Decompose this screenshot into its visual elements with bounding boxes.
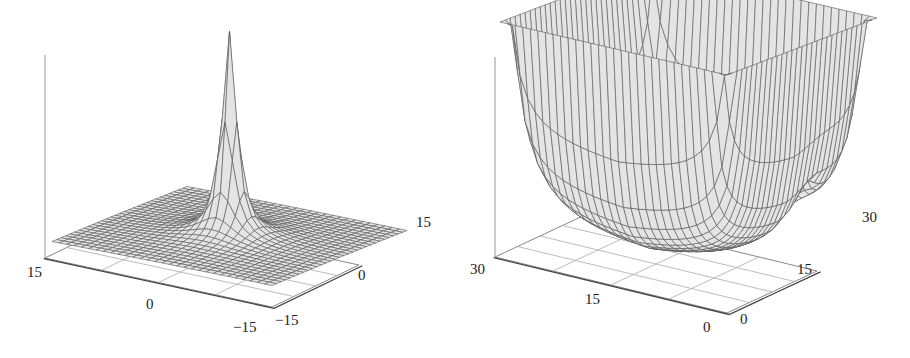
axis-tick-label: 15 — [585, 292, 600, 307]
surface-mesh — [500, 0, 877, 252]
axis-tick-label: 15 — [416, 215, 431, 230]
axis-tick-label: −15 — [233, 320, 256, 335]
surface-plot-left: 150−15−15015 — [0, 0, 455, 358]
axis-tick-label: 0 — [146, 297, 154, 312]
axis-tick-label: 15 — [27, 265, 42, 280]
axis-tick-label: 0 — [740, 312, 748, 327]
axis-tick-label: 30 — [470, 262, 485, 277]
axis-tick-label: 30 — [862, 210, 877, 225]
axis-tick-label: 15 — [797, 262, 812, 277]
surface-plot-right-canvas — [455, 0, 910, 358]
axis-tick-label: 0 — [358, 268, 366, 283]
surface-plot-right: 3015001530 — [455, 0, 910, 358]
surface-mesh — [52, 32, 407, 286]
surface-plot-left-canvas — [0, 0, 455, 358]
axis-tick-label: −15 — [275, 313, 298, 328]
axis-tick-label: 0 — [703, 320, 711, 335]
